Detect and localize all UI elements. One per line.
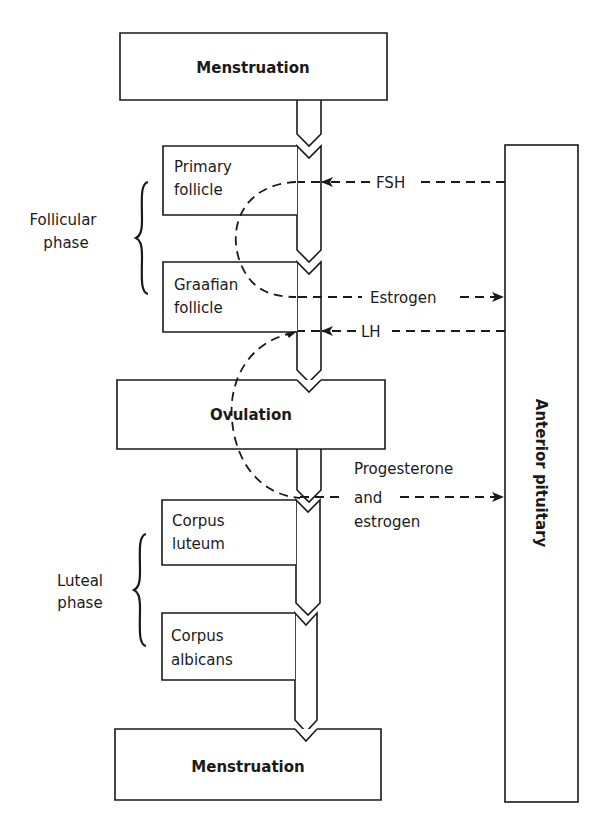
stage-corpus-albicans: Corpus albicans (162, 613, 295, 680)
stage-label-line1: Graafian (174, 276, 238, 294)
stage-menstruation-bottom: Menstruation (115, 729, 381, 800)
flow-arrow-primary-to-graafian (297, 146, 321, 262)
hormone-lh: LH (298, 323, 505, 341)
phase-luteal: Luteal phase (57, 534, 146, 646)
hormone-label: LH (361, 323, 381, 341)
brace-icon (136, 182, 148, 294)
stage-ovulation: Ovulation (117, 380, 385, 449)
stage-corpus-luteum: Corpus luteum (162, 500, 296, 565)
stage-label-line2: follicle (174, 299, 223, 317)
stage-label: Ovulation (210, 406, 292, 424)
phase-follicular: Follicular phase (29, 182, 148, 294)
stage-label-line2: follicle (174, 181, 223, 199)
gland-label: Anterior pituitary (532, 399, 550, 548)
flow-arrow-luteum-to-albicans (296, 500, 320, 615)
hormone-label-line3: estrogen (354, 513, 420, 531)
flow-arrow-ovulation-to-luteum (297, 449, 321, 502)
stage-label-line1: Corpus (172, 512, 225, 530)
stage-primary-follicle: Primary follicle (163, 146, 297, 215)
flow-arrow-graafian-to-ovulation (297, 262, 321, 382)
brace-icon (134, 534, 146, 646)
flow-arrow-albicans-to-menstruation (295, 613, 317, 732)
gland-anterior-pituitary: Anterior pituitary (505, 145, 578, 802)
menstrual-cycle-diagram: Menstruation Primary follicle Graafian f… (0, 0, 601, 827)
stage-label-line2: luteum (172, 535, 225, 553)
hormone-fsh: FSH (298, 174, 505, 192)
phase-label-line1: Luteal (57, 572, 103, 590)
stage-label-line1: Corpus (171, 627, 224, 645)
hormone-label: Estrogen (370, 289, 436, 307)
stage-graafian-follicle: Graafian follicle (163, 262, 297, 332)
stage-label: Menstruation (196, 59, 309, 77)
hormone-label-line2: and (354, 489, 382, 507)
stage-menstruation-top: Menstruation (120, 33, 387, 100)
phase-label-line1: Follicular (29, 211, 97, 229)
flow-arrow-menstruation-to-primary (297, 100, 321, 146)
phase-label-line2: phase (43, 234, 88, 252)
hormone-progesterone-estrogen: Progesterone and estrogen (300, 460, 503, 531)
stage-label: Menstruation (191, 758, 304, 776)
hormone-estrogen: Estrogen (298, 289, 503, 307)
stage-label-line1: Primary (174, 158, 232, 176)
hormone-label-line1: Progesterone (354, 460, 453, 478)
stage-label-line2: albicans (171, 651, 233, 669)
phase-label-line2: phase (57, 594, 102, 612)
hormone-label: FSH (376, 174, 405, 192)
